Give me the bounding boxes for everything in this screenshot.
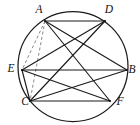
vertex-label-c: C <box>21 95 29 107</box>
chord-de <box>22 21 105 70</box>
vertex-label-e: E <box>6 62 14 74</box>
vertex-label-group: ADBFCE <box>6 3 135 107</box>
chord-ab <box>45 21 127 70</box>
vertex-point-c <box>29 100 31 102</box>
vertex-label-a: A <box>34 3 43 15</box>
geometry-figure: ADBFCE <box>0 0 140 125</box>
vertex-point-d <box>104 20 106 22</box>
geometry-canvas: ADBFCE <box>0 0 140 125</box>
vertex-point-e <box>21 69 23 71</box>
vertex-point-b <box>126 69 128 71</box>
vertex-label-f: F <box>115 95 124 107</box>
vertex-label-d: D <box>104 3 114 15</box>
circumscribed-circle <box>18 12 128 122</box>
vertex-label-b: B <box>128 63 135 75</box>
vertex-point-a <box>44 20 46 22</box>
solid-chord-group <box>22 21 127 101</box>
circle-group <box>18 12 128 122</box>
vertex-point-f <box>109 100 111 102</box>
